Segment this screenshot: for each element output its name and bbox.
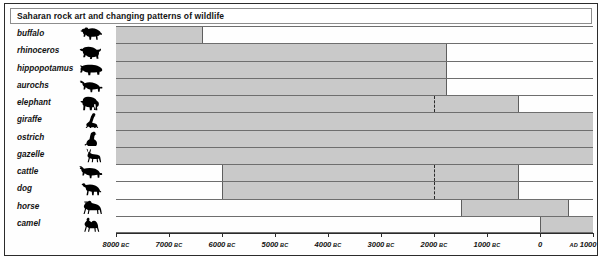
chart-row <box>116 61 593 78</box>
bar-horse <box>461 200 570 216</box>
hippopotamus-icon <box>71 62 111 77</box>
x-tick-label: 3000 BC <box>367 240 394 249</box>
bar-ostrich <box>116 131 593 147</box>
row-label-camel: camel <box>17 219 40 228</box>
chart-row <box>116 164 593 181</box>
buffalo-icon <box>71 27 111 42</box>
x-tick <box>222 233 223 237</box>
timeline-chart: buffalorhinoceroshippopotamusaurochselep… <box>5 4 599 257</box>
x-tick-label: 6000 BC <box>208 240 235 249</box>
aurochs-icon <box>71 79 111 94</box>
chart-row <box>116 26 593 43</box>
chart-row <box>116 43 593 60</box>
bar-divider-elephant <box>434 96 435 112</box>
chart-row <box>116 95 593 112</box>
camel-icon <box>71 217 111 232</box>
x-tick <box>381 233 382 237</box>
row-label-horse: horse <box>17 202 39 211</box>
x-tick <box>275 233 276 237</box>
chart-frame: Saharan rock art and changing patterns o… <box>4 3 598 256</box>
x-tick <box>116 233 117 237</box>
bar-elephant <box>116 96 519 112</box>
horse-icon <box>71 200 111 215</box>
row-label-gazelle: gazelle <box>17 150 44 159</box>
bar-gazelle <box>116 148 593 164</box>
x-tick <box>540 233 541 237</box>
bar-buffalo <box>116 27 203 43</box>
row-label-ostrich: ostrich <box>17 133 44 142</box>
chart-row <box>116 199 593 216</box>
row-label-aurochs: aurochs <box>17 81 49 90</box>
bar-divider-dog <box>434 182 435 198</box>
row-label-dog: dog <box>17 184 32 193</box>
x-tick-label: 7000 BC <box>155 240 182 249</box>
bar-giraffe <box>116 113 593 129</box>
x-tick-label: 4000 BC <box>314 240 341 249</box>
row-label-giraffe: giraffe <box>17 115 42 124</box>
x-axis-line <box>116 233 593 234</box>
x-tick-label: 5000 BC <box>261 240 288 249</box>
chart-row <box>116 78 593 95</box>
x-tick-label: AD 1000 <box>569 240 596 249</box>
x-tick <box>593 233 594 237</box>
chart-row <box>116 181 593 198</box>
ostrich-icon <box>71 131 111 146</box>
x-tick <box>434 233 435 237</box>
bar-hippopotamus <box>116 62 447 78</box>
gazelle-icon <box>71 148 111 163</box>
x-tick <box>328 233 329 237</box>
row-label-elephant: elephant <box>17 98 51 107</box>
dog-icon <box>71 182 111 197</box>
chart-row <box>116 112 593 129</box>
x-tick-label: 8000 BC <box>102 240 129 249</box>
row-label-rhinoceros: rhinoceros <box>17 46 59 55</box>
bar-divider-cattle <box>434 165 435 181</box>
row-label-buffalo: buffalo <box>17 29 44 38</box>
bar-aurochs <box>116 79 447 95</box>
bar-camel <box>540 217 593 232</box>
x-tick <box>169 233 170 237</box>
bar-rhinoceros <box>116 44 447 60</box>
row-label-hippopotamus: hippopotamus <box>17 64 73 73</box>
cattle-icon <box>71 165 111 180</box>
x-tick <box>487 233 488 237</box>
rhinoceros-icon <box>71 44 111 59</box>
giraffe-icon <box>71 113 111 128</box>
chart-row <box>116 130 593 147</box>
chart-row <box>116 147 593 164</box>
chart-row <box>116 216 593 233</box>
x-tick-label: 1000 BC <box>473 240 500 249</box>
bar-cattle <box>222 165 519 181</box>
row-label-cattle: cattle <box>17 167 38 176</box>
x-tick-label: 0 <box>538 240 542 249</box>
x-tick-label: 2000 BC <box>420 240 447 249</box>
elephant-icon <box>71 96 111 111</box>
bar-dog <box>222 182 519 198</box>
